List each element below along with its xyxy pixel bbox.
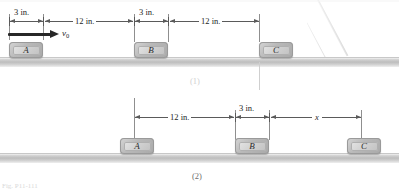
panel2-block-b: B bbox=[235, 138, 269, 154]
panel2-dim2-arrow-right bbox=[264, 115, 269, 119]
panel1-block-c-inner: C bbox=[263, 46, 290, 55]
panel1-block-a-label: A bbox=[23, 46, 29, 55]
velocity-arrow-head bbox=[50, 30, 59, 38]
velocity-label: v0 bbox=[62, 29, 69, 38]
panel2-block-b-inner: B bbox=[239, 142, 266, 151]
panel1-block-b: B bbox=[134, 42, 168, 58]
panel1-block-a-inner: A bbox=[13, 46, 40, 55]
panel2-caption: (2) bbox=[192, 172, 202, 181]
panel1-dim4-label: 12 in. bbox=[199, 17, 222, 26]
panel2-ext-line-c bbox=[361, 110, 362, 138]
panel2-block-a-label: A bbox=[134, 142, 140, 151]
panel2-dim2-arrow-left bbox=[236, 115, 241, 119]
panel1-ext-line-c-center bbox=[259, 62, 260, 90]
panel2-block-a-inner: A bbox=[124, 142, 151, 151]
panel1-block-b-inner: B bbox=[138, 46, 165, 55]
panel2-dim1-arrow-right bbox=[229, 115, 234, 119]
panel1-dim1-label: 3 in. bbox=[14, 8, 29, 17]
panel1-dim1-arrow-left bbox=[10, 19, 15, 23]
panel2-block-c: C bbox=[347, 138, 381, 154]
panel2-block-a: A bbox=[120, 138, 154, 154]
panel2-block-b-label: B bbox=[249, 142, 255, 151]
panel2-dim2-label: 3 in. bbox=[239, 104, 254, 113]
physics-figure: Fig. P11-111 3 in. 12 in. 3 in. 12 in. v… bbox=[0, 0, 399, 191]
panel1-block-b-label: B bbox=[148, 46, 154, 55]
panel1-block-c-label: C bbox=[273, 46, 279, 55]
panel1-dim3-tick-right bbox=[168, 17, 169, 26]
panel1-dim3-arrow-right bbox=[163, 19, 168, 23]
panel2-dim3-arrow-left bbox=[271, 115, 276, 119]
velocity-arrow-shaft bbox=[8, 33, 51, 36]
cropped-figure-caption: Fig. P11-111 bbox=[2, 183, 66, 190]
panel1-caption: (1) bbox=[190, 77, 200, 86]
panel1-dim3-arrow-left bbox=[135, 19, 140, 23]
panel1-dim1-arrow-right bbox=[38, 19, 43, 23]
panel1-dim2-label: 12 in. bbox=[73, 17, 96, 26]
velocity-subscript: 0 bbox=[66, 32, 69, 39]
panel2-ext-line-a bbox=[134, 98, 135, 140]
top-edge-smudge bbox=[0, 0, 399, 2]
panel1-dim4-arrow-left bbox=[170, 19, 175, 23]
panel2-dim3-arrow-right bbox=[356, 115, 361, 119]
panel2-block-c-inner: C bbox=[351, 142, 378, 151]
panel1-dim4-arrow-right bbox=[254, 19, 259, 23]
panel1-block-c: C bbox=[259, 42, 293, 58]
panel2-dim1-arrow-left bbox=[135, 115, 140, 119]
panel2-ground-surface bbox=[0, 153, 399, 163]
panel1-dim2-arrow-left bbox=[45, 19, 50, 23]
panel1-block-a: A bbox=[9, 42, 43, 58]
panel1-ext-line-c-left bbox=[259, 14, 260, 42]
panel1-ground-surface bbox=[0, 57, 399, 67]
panel2-dim2-tick-right bbox=[269, 113, 270, 122]
panel1-dim3-label: 3 in. bbox=[139, 8, 154, 17]
panel1-dim2-arrow-right bbox=[128, 19, 133, 23]
panel2-dim1-label: 12 in. bbox=[168, 113, 191, 122]
panel1-dim1-tick-right bbox=[43, 17, 44, 26]
panel2-dim3-label: x bbox=[312, 113, 322, 122]
panel2-block-c-label: C bbox=[361, 142, 367, 151]
